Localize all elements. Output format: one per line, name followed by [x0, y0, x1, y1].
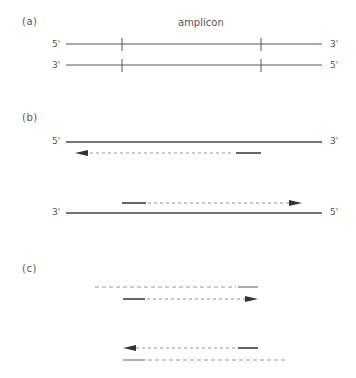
arrowhead-right-icon: [245, 296, 258, 302]
panel-b-diagram: [66, 142, 322, 213]
pcr-diagram: [0, 0, 356, 378]
arrowhead-left-icon: [75, 150, 88, 156]
panel-c-diagram: [95, 287, 286, 360]
arrowhead-right-icon: [289, 200, 302, 206]
arrowhead-left-icon: [123, 345, 136, 351]
panel-a-diagram: [66, 38, 322, 72]
